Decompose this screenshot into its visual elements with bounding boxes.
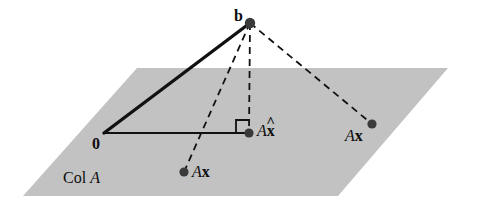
- label-a-x-hat-xhat: ^x: [267, 123, 275, 139]
- label-ax-lower: Ax: [192, 164, 210, 180]
- label-ax-right-x: x: [355, 127, 363, 144]
- label-origin: 0: [92, 136, 100, 152]
- label-a-x-hat: A^x: [257, 123, 275, 139]
- label-col-a-matrix: A: [90, 169, 100, 186]
- point-ax-right: [367, 119, 376, 128]
- point-a-x-hat: [244, 128, 253, 137]
- point-ax-lower: [179, 167, 188, 176]
- projection-diagram: b 0 A^x Ax Ax Col A: [0, 0, 477, 203]
- label-a-x-hat-A: A: [257, 122, 267, 139]
- label-ax-right-A: A: [345, 127, 355, 144]
- label-ax-lower-x: x: [202, 163, 210, 180]
- hat-accent-icon: ^: [266, 114, 275, 129]
- point-b: [245, 18, 255, 28]
- label-ax-right: Ax: [345, 128, 363, 144]
- label-col-a-text: Col: [63, 169, 90, 186]
- label-b: b: [234, 8, 243, 24]
- label-ax-lower-A: A: [192, 163, 202, 180]
- label-col-a: Col A: [63, 170, 100, 186]
